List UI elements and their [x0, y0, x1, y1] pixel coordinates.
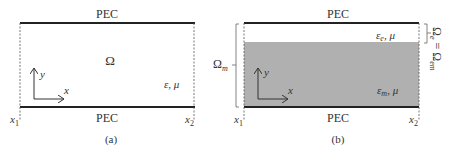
panel-a-x2-label: x2: [184, 113, 194, 128]
panel-a-y-axis-label: y: [39, 68, 45, 80]
panel-a-domain-omega: Ω: [105, 53, 115, 68]
panel-a-x-axis-label: x: [63, 84, 69, 96]
panel-b-omega-m-bracket: Ωm: [213, 24, 239, 107]
panel-a-bottom-pec-label: PEC: [96, 111, 118, 125]
panel-b-omega-e-bracket: Ωe = Ωem: [424, 24, 444, 71]
panel-b-x-axis-label: x: [287, 84, 293, 96]
left-bracket-shape: [236, 24, 239, 107]
panel-b-omega-e-label: Ωe = Ωem: [428, 27, 444, 71]
panel-b: PEC PEC εe, μ εm, μ y x Ωm Ωe = Ωem x1 x…: [213, 7, 444, 146]
panel-b-lower-dielectric-fill: [244, 42, 419, 107]
panel-a-axes: y x: [34, 68, 69, 99]
panel-b-upper-material-label: εe, μ: [376, 29, 395, 43]
panel-b-omega-m-label: Ωm: [213, 57, 228, 73]
waveguide-diagram: PEC PEC Ω ε, μ y x x1 x2 (a) PEC PEC εe,…: [0, 0, 454, 153]
panel-b-x1-label: x1: [233, 113, 243, 128]
right-bracket-shape: [424, 24, 427, 43]
panel-b-y-axis-label: y: [263, 66, 269, 78]
panel-a-x1-label: x1: [9, 113, 19, 128]
panel-b-bottom-pec-label: PEC: [327, 111, 349, 125]
panel-a-caption: (a): [105, 133, 118, 146]
panel-a: PEC PEC Ω ε, μ y x x1 x2 (a): [9, 7, 195, 146]
panel-a-top-pec-label: PEC: [96, 7, 118, 21]
panel-b-x2-label: x2: [408, 113, 418, 128]
panel-b-caption: (b): [332, 133, 345, 146]
panel-b-top-pec-label: PEC: [327, 7, 349, 21]
panel-a-material-label: ε, μ: [164, 78, 180, 90]
panel-b-lower-material-label: εm, μ: [377, 84, 399, 98]
